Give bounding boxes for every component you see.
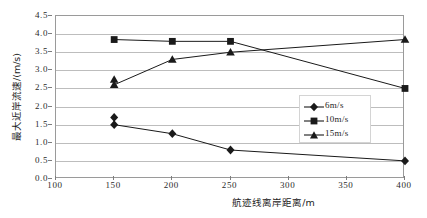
y-axis-tick-label: 4.5 bbox=[35, 10, 48, 20]
y-axis-tick-label: 1.5 bbox=[35, 119, 48, 129]
y-axis-tick-label: 0.5 bbox=[35, 155, 48, 165]
legend-label-6ms: 6m/s bbox=[325, 100, 344, 110]
y-axis-tick-label: 3.0 bbox=[35, 64, 48, 74]
y-axis-tick-label: 3.5 bbox=[35, 46, 48, 56]
x-axis-title: 航迹线离岸距离/m bbox=[0, 195, 427, 209]
diamond-data-marker bbox=[168, 129, 176, 138]
x-axis-tick-mark bbox=[346, 176, 347, 180]
y-axis-tick-mark bbox=[48, 69, 52, 70]
x-axis-tick-label: 400 bbox=[396, 180, 411, 190]
diamond-data-marker bbox=[110, 120, 118, 129]
y-axis-tick-mark bbox=[48, 178, 52, 179]
diamond-data-marker bbox=[227, 146, 235, 155]
legend-item: 6m/s bbox=[303, 98, 367, 112]
triangle-marker-icon bbox=[303, 127, 325, 139]
x-axis-tick-label: 150 bbox=[106, 180, 121, 190]
y-axis-tick-mark bbox=[48, 51, 52, 52]
square-data-marker bbox=[227, 38, 234, 45]
y-axis-tick-mark bbox=[48, 106, 52, 107]
triangle-data-marker bbox=[401, 35, 410, 43]
y-axis-tick-mark bbox=[48, 160, 52, 161]
square-marker-icon bbox=[303, 113, 325, 125]
x-axis-tick-mark bbox=[113, 176, 114, 180]
x-axis-tick-labels: 100150200250300350400 bbox=[55, 180, 404, 194]
square-data-marker bbox=[111, 36, 118, 43]
y-axis-tick-label: 2.0 bbox=[35, 101, 48, 111]
y-axis-tick-mark bbox=[48, 124, 52, 125]
x-axis-tick-label: 200 bbox=[164, 180, 179, 190]
chart-container: 最大近岸流速/(m/s) 0.00.51.01.52.02.53.03.54.0… bbox=[0, 0, 427, 218]
plot-area: 6m/s 10m/s 15m/s bbox=[55, 15, 404, 178]
x-axis-tick-label: 250 bbox=[222, 180, 237, 190]
x-axis-tick-label: 350 bbox=[338, 180, 353, 190]
x-axis-tick-mark bbox=[288, 176, 289, 180]
chart-legend: 6m/s 10m/s 15m/s bbox=[299, 95, 371, 143]
x-axis-tick-mark bbox=[171, 176, 172, 180]
y-axis-tick-label: 2.5 bbox=[35, 82, 48, 92]
x-axis-tick-mark bbox=[55, 176, 56, 180]
x-axis-tick-label: 300 bbox=[280, 180, 295, 190]
diamond-marker-icon bbox=[303, 99, 325, 111]
series-line-10ms bbox=[114, 40, 405, 89]
legend-label-10ms: 10m/s bbox=[325, 114, 349, 124]
legend-item: 10m/s bbox=[303, 112, 367, 126]
y-axis-tick-mark bbox=[48, 142, 52, 143]
y-axis-tick-mark bbox=[48, 15, 52, 16]
legend-label-15ms: 15m/s bbox=[325, 128, 349, 138]
x-axis-tick-label: 100 bbox=[47, 180, 62, 190]
legend-item: 15m/s bbox=[303, 126, 367, 140]
series-line-15ms bbox=[114, 40, 405, 85]
square-data-marker bbox=[402, 85, 409, 92]
y-axis-tick-label: 1.0 bbox=[35, 137, 48, 147]
x-axis-tick-mark bbox=[230, 176, 231, 180]
y-axis-tick-label: 4.0 bbox=[35, 28, 48, 38]
y-axis-tick-label: 0.0 bbox=[35, 173, 48, 183]
diamond-data-marker bbox=[401, 156, 409, 165]
y-axis-tick-labels: 0.00.51.01.52.02.53.03.54.04.5 bbox=[0, 15, 52, 178]
square-data-marker bbox=[169, 38, 176, 45]
y-axis-tick-mark bbox=[48, 87, 52, 88]
x-axis-tick-mark bbox=[404, 176, 405, 180]
y-axis-tick-mark bbox=[48, 33, 52, 34]
